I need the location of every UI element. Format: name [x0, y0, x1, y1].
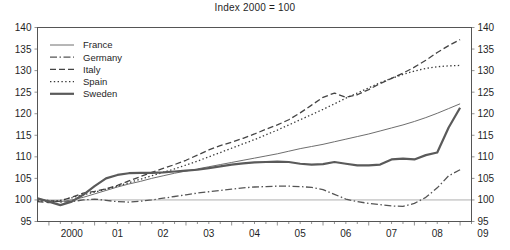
- series-line-germany: [38, 170, 461, 207]
- y-tick-label-left: 100: [15, 194, 32, 205]
- x-tick-label: 06: [340, 228, 352, 239]
- x-tick-label: 07: [386, 228, 398, 239]
- legend-label-france: France: [83, 39, 113, 50]
- x-tick-label: 02: [158, 228, 170, 239]
- line-chart-plot: 95100105110115120125130135140 9510010511…: [0, 0, 510, 250]
- x-tick-label: 08: [432, 228, 444, 239]
- y-tick-label-left: 135: [15, 44, 32, 55]
- y-tick-label-left: 95: [20, 216, 32, 227]
- y-axis-left: 95100105110115120125130135140: [15, 22, 38, 227]
- y-tick-label-right: 130: [478, 65, 495, 76]
- y-tick-label-left: 115: [16, 130, 32, 141]
- x-tick-label: 04: [249, 228, 261, 239]
- y-tick-label-right: 105: [478, 173, 495, 184]
- data-series-group: [38, 40, 461, 207]
- y-tick-label-right: 140: [478, 22, 495, 33]
- legend-label-germany: Germany: [83, 52, 122, 63]
- y-tick-label-left: 125: [15, 87, 32, 98]
- legend-label-sweden: Sweden: [83, 88, 117, 99]
- x-tick-label: 03: [203, 228, 215, 239]
- x-axis: 2000010203040506070809: [49, 222, 489, 239]
- y-tick-label-left: 120: [15, 108, 32, 119]
- y-tick-label-right: 100: [478, 194, 495, 205]
- legend-label-italy: Italy: [83, 64, 101, 75]
- y-tick-label-right: 115: [478, 130, 494, 141]
- y-tick-label-right: 110: [478, 151, 494, 162]
- chart-container: Index 2000 = 100 95100105110115120125130…: [0, 0, 510, 250]
- y-tick-label-right: 135: [478, 44, 495, 55]
- y-tick-label-left: 110: [16, 151, 32, 162]
- legend-label-spain: Spain: [83, 76, 107, 87]
- y-tick-label-right: 125: [478, 87, 495, 98]
- y-tick-label-right: 95: [478, 216, 490, 227]
- x-tick-label: 09: [477, 228, 489, 239]
- y-axis-right: 95100105110115120125130135140: [472, 22, 495, 227]
- y-tick-label-left: 105: [15, 173, 32, 184]
- chart-legend: FranceGermanyItalySpainSweden: [50, 39, 122, 99]
- y-tick-label-right: 120: [478, 108, 495, 119]
- y-tick-label-left: 140: [15, 22, 32, 33]
- x-tick-label: 01: [112, 228, 124, 239]
- x-tick-label: 05: [295, 228, 307, 239]
- series-line-italy: [38, 40, 461, 203]
- y-tick-label-left: 130: [15, 65, 32, 76]
- x-tick-label: 2000: [61, 228, 84, 239]
